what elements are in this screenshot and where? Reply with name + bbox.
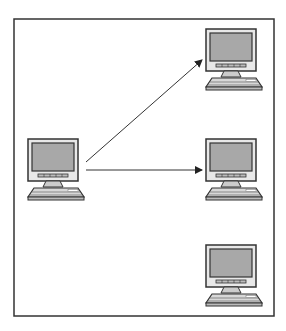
arrow-to-top [86, 60, 202, 162]
source-computer-icon [28, 139, 84, 200]
target-top-computer-icon [206, 29, 262, 90]
network-diagram [0, 0, 286, 331]
target-bottom-computer-icon [206, 245, 262, 306]
target-middle-computer-icon [206, 139, 262, 200]
